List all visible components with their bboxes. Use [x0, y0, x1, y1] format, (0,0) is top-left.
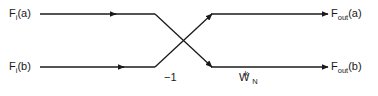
input-fi-a-base: F: [9, 7, 16, 19]
output-fout-a-argument: (a): [348, 7, 361, 19]
input-fi-b-argument: (b): [17, 60, 30, 72]
output-fout-a-base: F: [331, 7, 338, 19]
input-fi-b-base: F: [9, 60, 16, 72]
signal-flow-graph: [0, 0, 378, 96]
output-label-fout-a: Fout(a): [331, 8, 362, 19]
input-label-fi-a: Fi(a): [9, 8, 31, 19]
output-fout-b-subscript: out: [338, 66, 348, 75]
output-fout-b-argument: (b): [348, 60, 361, 72]
output-label-fout-b: Fout(b): [331, 61, 362, 72]
twiddle-factor-label: WkN: [239, 72, 259, 83]
twiddle-superscript: k: [244, 69, 248, 78]
butterfly-diagram: Fi(a) Fi(b) Fout(a) Fout(b) −1 WkN: [0, 0, 378, 96]
output-fout-b-base: F: [331, 60, 338, 72]
input-label-fi-b: Fi(b): [9, 61, 31, 72]
input-fi-a-argument: (a): [17, 7, 30, 19]
gain-label-minus-one: −1: [164, 72, 177, 83]
twiddle-subscript: N: [252, 77, 257, 86]
output-fout-a-subscript: out: [338, 13, 348, 22]
